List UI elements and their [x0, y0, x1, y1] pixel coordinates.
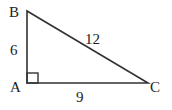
vertex-label-c: C [150, 79, 160, 95]
triangle-abc [27, 11, 148, 83]
vertex-label-b: B [9, 4, 19, 20]
vertex-label-a: A [10, 79, 21, 95]
right-angle-marker [27, 73, 38, 83]
triangle-diagram: B A C 6 12 9 [0, 0, 172, 110]
side-label-ac: 9 [76, 89, 84, 105]
side-label-ab: 6 [10, 42, 18, 58]
side-label-bc: 12 [85, 31, 100, 47]
